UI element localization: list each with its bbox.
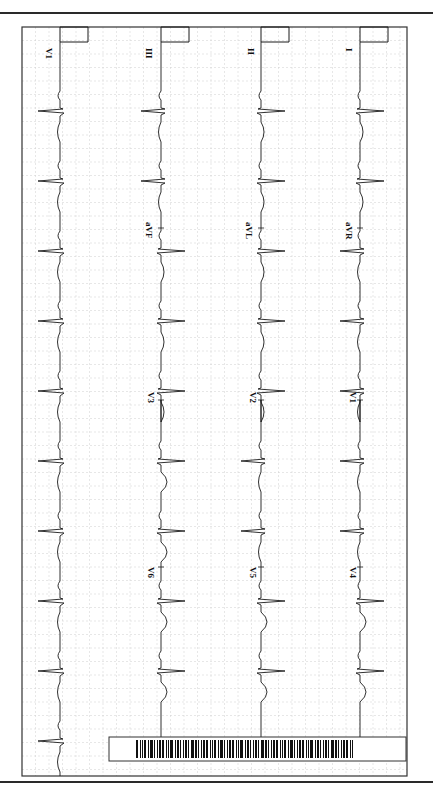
lead-label-avr: aVR	[344, 222, 354, 240]
trace-v4-lane3	[356, 567, 384, 737]
lead-label-v5: V5	[248, 567, 258, 578]
lead-labels: V1IIIIIIaVFaVLaVRV3V2V1V6V5V4	[44, 48, 358, 578]
lead-label-i: I	[344, 48, 354, 52]
trace-v1-lane3	[340, 400, 364, 567]
lead-label-v2: V2	[248, 392, 258, 403]
lead-label-v3: V3	[146, 392, 156, 403]
lead-label-avl: aVL	[244, 222, 254, 239]
lead-label-v1: V1	[348, 392, 358, 403]
lead-label-v4: V4	[348, 567, 358, 578]
lead-label-v6: V6	[146, 567, 156, 578]
trace-v2-lane2	[241, 400, 265, 567]
trace-v6-lane1	[157, 567, 185, 737]
lead-label-v1: V1	[44, 48, 54, 59]
ecg-traces	[38, 27, 388, 776]
trace-v1-lane0	[38, 42, 64, 776]
calibration-pulse	[60, 27, 88, 42]
lead-label-avf: aVF	[144, 222, 154, 239]
calibration-pulse	[161, 27, 189, 42]
lead-label-ii: II	[246, 48, 256, 56]
trace-avf-lane1	[157, 228, 185, 422]
trace-v5-lane2	[257, 567, 285, 737]
trace-avl-lane2	[257, 228, 285, 422]
trace-v3-lane1	[157, 400, 185, 567]
ecg-sheet: V1IIIIIIaVFaVLaVRV3V2V1V6V5V4	[0, 0, 433, 796]
trace-iii-lane1	[141, 42, 165, 228]
calibration-pulse	[360, 27, 388, 42]
lead-label-iii: III	[144, 48, 154, 59]
barcode	[109, 737, 406, 761]
